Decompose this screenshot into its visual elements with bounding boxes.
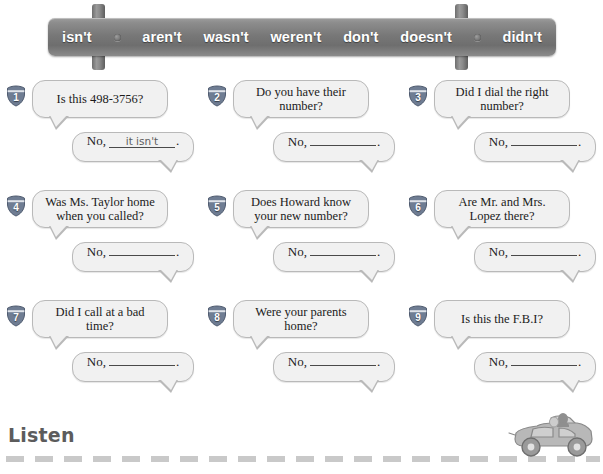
exercise-row: 7 Did I call at a bad time? No, . [0,296,603,406]
question-bubble: Were your parents home? [233,300,369,338]
answer-prefix: No, [87,354,106,370]
answer-prefix: No, [489,134,508,150]
exercise-item-3: 3 Did I dial the right number? No, . [402,76,603,186]
question-text: Does Howard know your new number? [234,191,368,227]
question-text: Are Mr. and Mrs. Lopez there? [435,191,569,227]
answer-punctuation: . [377,134,380,150]
answer-blank[interactable]: it isn't [109,135,175,148]
highway-shield-icon: 9 [408,305,428,327]
question-text: Did I call at a bad time? [33,301,167,337]
question-bubble: Did I dial the right number? [434,80,570,118]
answer-bubble[interactable]: No, . [474,132,596,162]
answer-punctuation: . [578,134,581,150]
word-bank-item-5[interactable]: doesn't [400,29,452,45]
question-text: Was Ms. Taylor home when you called? [33,191,167,227]
answer-prefix: No, [288,244,307,260]
answer-punctuation: . [176,244,179,260]
question-bubble: Did I call at a bad time? [32,300,168,338]
answer-punctuation: . [578,354,581,370]
convertible-car-icon [507,412,599,464]
answer-blank[interactable] [511,243,577,256]
answer-prefix: No, [87,244,106,260]
question-bubble: Are Mr. and Mrs. Lopez there? [434,190,570,228]
exercise-row: 1 Is this 498-3756? No, it isn't . [0,76,603,186]
exercise-item-7: 7 Did I call at a bad time? No, . [0,296,201,406]
exercise-item-8: 8 Were your parents home? No, . [201,296,402,406]
question-bubble: Is this 498-3756? [32,80,168,118]
exercise-number: 3 [408,92,428,103]
section-heading: Listen [8,424,75,446]
exercise-number: 8 [207,312,227,323]
exercise-item-1: 1 Is this 498-3756? No, it isn't . [0,76,201,186]
answer-blank[interactable] [109,353,175,366]
exercise-number: 4 [6,202,26,213]
word-bank-item-1[interactable]: aren't [142,29,182,45]
listen-section: Listen [0,418,603,474]
answer-blank[interactable] [310,243,376,256]
question-text: Did I dial the right number? [435,81,569,117]
answer-prefix: No, [288,354,307,370]
answer-prefix: No, [288,134,307,150]
exercise-item-9: 9 Is this the F.B.I? No, . [402,296,603,406]
highway-shield-icon: 6 [408,195,428,217]
answer-prefix: No, [489,354,508,370]
exercise-number: 9 [408,312,428,323]
question-text: Is this 498-3756? [33,81,167,117]
highway-shield-icon: 8 [207,305,227,327]
exercise-item-4: 4 Was Ms. Taylor home when you called? N… [0,186,201,296]
highway-shield-icon: 1 [6,85,26,107]
word-bank-sign: isn't aren't wasn't weren't don't doesn'… [48,18,556,56]
answer-bubble[interactable]: No, . [474,352,596,382]
highway-shield-icon: 2 [207,85,227,107]
question-bubble: Do you have their number? [233,80,369,118]
answer-bubble[interactable]: No, . [273,132,395,162]
answer-punctuation: . [176,354,179,370]
highway-shield-icon: 3 [408,85,428,107]
answer-blank[interactable] [310,353,376,366]
worksheet-page: isn't aren't wasn't weren't don't doesn'… [0,0,603,474]
exercise-number: 2 [207,92,227,103]
exercise-number: 7 [6,312,26,323]
exercise-item-2: 2 Do you have their number? No, . [201,76,402,186]
answer-bubble[interactable]: No, . [273,352,395,382]
question-text: Is this the F.B.I? [435,301,569,337]
exercise-number: 5 [207,202,227,213]
answer-blank[interactable] [109,243,175,256]
highway-shield-icon: 7 [6,305,26,327]
word-bank-item-4[interactable]: don't [343,29,378,45]
answer-punctuation: . [377,244,380,260]
answer-bubble[interactable]: No, it isn't . [72,132,194,162]
rivet-icon-right [474,34,481,41]
exercise-item-5: 5 Does Howard know your new number? No, … [201,186,402,296]
exercise-number: 6 [408,202,428,213]
question-text: Were your parents home? [234,301,368,337]
answer-blank[interactable] [511,353,577,366]
answer-bubble[interactable]: No, . [72,242,194,272]
answer-punctuation: . [377,354,380,370]
question-text: Do you have their number? [234,81,368,117]
word-bank: isn't aren't wasn't weren't don't doesn'… [48,18,556,56]
highway-shield-icon: 5 [207,195,227,217]
word-bank-item-3[interactable]: weren't [270,29,321,45]
answer-bubble[interactable]: No, . [72,352,194,382]
exercise-number: 1 [6,92,26,103]
highway-shield-icon: 4 [6,195,26,217]
word-bank-item-2[interactable]: wasn't [204,29,249,45]
answer-bubble[interactable]: No, . [474,242,596,272]
answer-prefix: No, [489,244,508,260]
answer-punctuation: . [176,133,179,149]
answer-blank[interactable] [310,133,376,146]
answer-punctuation: . [578,244,581,260]
answer-bubble[interactable]: No, . [273,242,395,272]
question-bubble: Does Howard know your new number? [233,190,369,228]
question-bubble: Is this the F.B.I? [434,300,570,338]
word-bank-item-6[interactable]: didn't [502,29,541,45]
exercise-grid: 1 Is this 498-3756? No, it isn't . [0,76,603,406]
answer-prefix: No, [87,133,106,149]
question-bubble: Was Ms. Taylor home when you called? [32,190,168,228]
answer-blank[interactable] [511,133,577,146]
rivet-icon-left [114,34,121,41]
exercise-row: 4 Was Ms. Taylor home when you called? N… [0,186,603,296]
exercise-item-6: 6 Are Mr. and Mrs. Lopez there? No, . [402,186,603,296]
word-bank-item-0[interactable]: isn't [62,29,92,45]
